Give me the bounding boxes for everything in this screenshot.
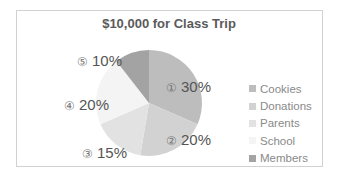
legend-item-parents: Parents — [249, 115, 312, 132]
slice-label-donations: ②20% — [166, 131, 211, 148]
legend-swatch — [249, 137, 256, 144]
legend-item-cookies: Cookies — [249, 80, 312, 97]
slice-label-parents: ③15% — [82, 144, 127, 161]
legend-item-school: School — [249, 132, 312, 149]
legend-swatch — [249, 85, 256, 92]
legend-item-donations: Donations — [249, 97, 312, 114]
legend-swatch — [249, 120, 256, 127]
slice-label-cookies: ①30% — [166, 78, 211, 95]
legend-swatch — [249, 155, 256, 162]
chart-legend: Cookies Donations Parents School Members — [249, 80, 312, 167]
slice-label-members: ⑤10% — [77, 52, 122, 69]
legend-item-members: Members — [249, 150, 312, 167]
legend-swatch — [249, 103, 256, 110]
slice-label-school: ④20% — [64, 96, 109, 113]
